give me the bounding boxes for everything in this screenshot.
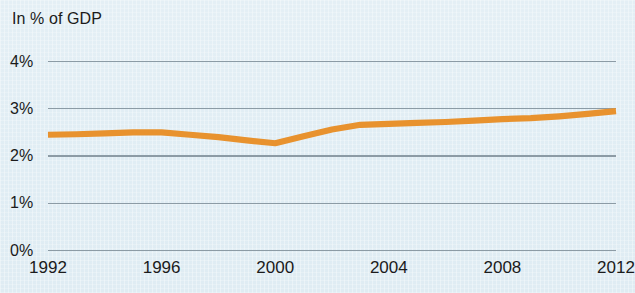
y-tick-label-4pct: 4% bbox=[10, 53, 44, 71]
x-tick-label-1996: 1996 bbox=[143, 258, 181, 278]
gridline-group bbox=[48, 62, 616, 251]
x-tick-label-2004: 2004 bbox=[370, 258, 408, 278]
y-tick-label-1pct: 1% bbox=[10, 194, 44, 212]
plot-area bbox=[0, 0, 635, 293]
x-tick-label-1992: 1992 bbox=[29, 258, 67, 278]
chart-container: In % of GDP 0%1%2%3%4% 19921996200020042… bbox=[0, 0, 635, 293]
y-tick-label-2pct: 2% bbox=[10, 147, 44, 165]
x-tick-label-2008: 2008 bbox=[483, 258, 521, 278]
y-tick-label-0pct: 0% bbox=[10, 242, 44, 260]
x-tick-label-2012: 2012 bbox=[597, 258, 635, 278]
data-line-series-gdp bbox=[48, 111, 616, 143]
x-tick-label-2000: 2000 bbox=[256, 258, 294, 278]
y-tick-label-3pct: 3% bbox=[10, 100, 44, 118]
